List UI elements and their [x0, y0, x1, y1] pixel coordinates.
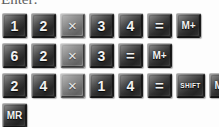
memory-recall-icon[interactable]: MR: [2, 103, 27, 127]
key-3[interactable]: 3: [89, 13, 114, 38]
key-label: M+: [152, 49, 166, 63]
key-label: SHIFT: [180, 79, 200, 93]
key-label: M+: [181, 19, 195, 33]
key-label: ×: [68, 79, 77, 93]
key-2[interactable]: 2: [31, 13, 56, 38]
instruction-text: Enter:: [1, 0, 38, 7]
sequence-row-3: 2 4 × 1 4 = SHIFT M+: [2, 73, 219, 98]
multiply-icon[interactable]: ×: [60, 43, 85, 68]
key-label: 6: [11, 49, 19, 63]
key-4[interactable]: 4: [118, 13, 143, 38]
key-label: 1: [11, 19, 19, 33]
equals-icon[interactable]: =: [147, 13, 172, 38]
key-label: 2: [40, 19, 48, 33]
key-6[interactable]: 6: [2, 43, 27, 68]
key-2[interactable]: 2: [2, 73, 27, 98]
shift-icon[interactable]: SHIFT: [176, 73, 205, 98]
key-label: =: [155, 19, 164, 33]
sequence-row-2: 6 2 × 3 = M+: [2, 43, 176, 68]
key-label: 1: [98, 79, 106, 93]
key-label: 4: [127, 79, 135, 93]
key-1[interactable]: 1: [2, 13, 27, 38]
key-label: M+: [214, 79, 219, 93]
sequence-row-1: 1 2 × 3 4 = M+: [2, 13, 205, 38]
sequence-row-4: MR: [2, 103, 31, 127]
key-4[interactable]: 4: [118, 73, 143, 98]
equals-icon[interactable]: =: [147, 73, 172, 98]
key-label: 4: [127, 19, 135, 33]
calculator-key-sequence-figure: Enter: 1 2 × 3 4 = M+ 6 2: [0, 0, 219, 127]
equals-icon[interactable]: =: [118, 43, 143, 68]
key-label: 4: [40, 79, 48, 93]
key-label: ×: [68, 49, 77, 63]
instruction-clip: Enter:: [0, 0, 219, 9]
memory-add-icon[interactable]: M+: [147, 43, 172, 68]
key-1[interactable]: 1: [89, 73, 114, 98]
key-label: =: [126, 49, 135, 63]
key-4[interactable]: 4: [31, 73, 56, 98]
key-label: MR: [7, 109, 23, 123]
key-label: 2: [11, 79, 19, 93]
key-label: 3: [98, 19, 106, 33]
memory-add-icon[interactable]: M+: [176, 13, 201, 38]
key-label: ×: [68, 19, 77, 33]
memory-add-icon[interactable]: M+: [209, 73, 219, 98]
key-label: 3: [98, 49, 106, 63]
key-2[interactable]: 2: [31, 43, 56, 68]
multiply-icon[interactable]: ×: [60, 13, 85, 38]
key-label: 2: [40, 49, 48, 63]
key-3[interactable]: 3: [89, 43, 114, 68]
key-label: =: [155, 79, 164, 93]
multiply-icon[interactable]: ×: [60, 73, 85, 98]
